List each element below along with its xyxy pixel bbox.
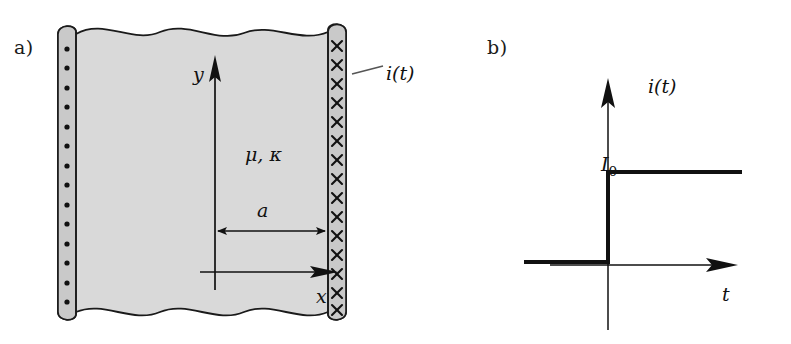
panel-a-drawing — [0, 0, 460, 344]
step-level-subscript: 0 — [609, 163, 618, 179]
step-level-label: I0 — [601, 153, 617, 179]
x-axis-label: x — [316, 285, 327, 307]
current-sheet-label: i(t) — [386, 62, 415, 84]
current-label-leader-line — [352, 66, 383, 74]
y-axis-label: y — [193, 63, 204, 85]
panel-b-label: b) — [487, 36, 508, 58]
figure-root: a) i(t) μ, κ a y x b) i(t) I0 t — [0, 0, 791, 344]
plot-y-axis-label: i(t) — [648, 75, 677, 97]
dimension-a-label: a — [257, 199, 268, 221]
panel-b-plot — [460, 0, 780, 344]
panel-a-label: a) — [14, 36, 34, 58]
step-function-curve — [524, 172, 742, 262]
plot-x-axis-label: t — [722, 283, 730, 305]
step-level-symbol: I — [601, 153, 609, 175]
material-properties-label: μ, κ — [245, 143, 282, 165]
